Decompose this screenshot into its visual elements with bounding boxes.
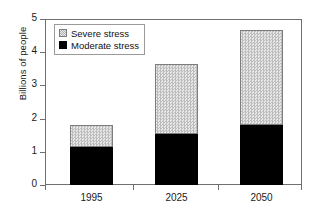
bar-segment-moderate-2025	[155, 134, 198, 186]
chart-legend: Severe stress Moderate stress	[54, 24, 145, 55]
y-tick-4: 4	[0, 52, 45, 53]
bar-segment-moderate-2050	[240, 125, 283, 185]
legend-item-moderate-stress: Moderate stress	[59, 39, 139, 51]
y-tick-mark-2	[40, 119, 45, 120]
y-tick-mark-5	[40, 19, 45, 20]
x-tick-mark-2	[218, 185, 219, 190]
x-tick-label-1995: 1995	[69, 191, 114, 204]
y-tick-mark-3	[40, 85, 45, 86]
y-tick-label-1: 1	[31, 145, 37, 157]
bar-segment-severe-2050	[240, 30, 283, 125]
legend-label-severe-stress: Severe stress	[71, 28, 129, 39]
stacked-bar-chart: Billions of people 0 1 2 3 4 5	[0, 0, 328, 214]
bar-segment-moderate-1995	[70, 147, 113, 185]
y-tick-0: 0	[0, 185, 45, 186]
y-tick-mark-1	[40, 152, 45, 153]
x-tick-mark-left	[45, 185, 46, 190]
legend-swatch-moderate-stress-icon	[59, 41, 67, 49]
bar-1995	[70, 125, 113, 185]
x-tick-label-2050: 2050	[239, 191, 284, 204]
y-tick-label-3: 3	[31, 78, 37, 90]
bar-2050	[240, 30, 283, 185]
y-axis-label: Billions of people	[17, 4, 28, 124]
y-tick-mark-4	[40, 52, 45, 53]
y-tick-3: 3	[0, 85, 45, 86]
bar-segment-severe-1995	[70, 125, 113, 147]
y-tick-label-0: 0	[31, 178, 37, 190]
x-tick-mark-right	[301, 185, 302, 190]
x-tick-label-2025: 2025	[154, 191, 199, 204]
y-tick-label-2: 2	[31, 112, 37, 124]
x-tick-mark-1	[133, 185, 134, 190]
legend-swatch-severe-stress-icon	[59, 29, 67, 37]
y-tick-label-4: 4	[31, 45, 37, 57]
legend-item-severe-stress: Severe stress	[59, 27, 139, 39]
bar-segment-severe-2025	[155, 64, 198, 134]
y-tick-1: 1	[0, 152, 45, 153]
y-tick-5: 5	[0, 19, 45, 20]
legend-label-moderate-stress: Moderate stress	[71, 40, 139, 51]
y-tick-label-5: 5	[31, 12, 37, 24]
y-tick-2: 2	[0, 119, 45, 120]
bar-2025	[155, 64, 198, 185]
